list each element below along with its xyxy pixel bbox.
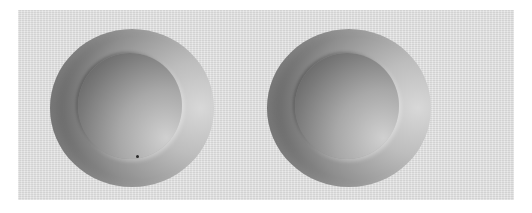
dark-speck [136, 155, 139, 158]
left-sphere [50, 29, 214, 187]
right-sphere [267, 29, 431, 187]
left-inner-disc [78, 53, 182, 159]
image-panel [18, 10, 514, 200]
right-inner-disc [295, 53, 399, 159]
